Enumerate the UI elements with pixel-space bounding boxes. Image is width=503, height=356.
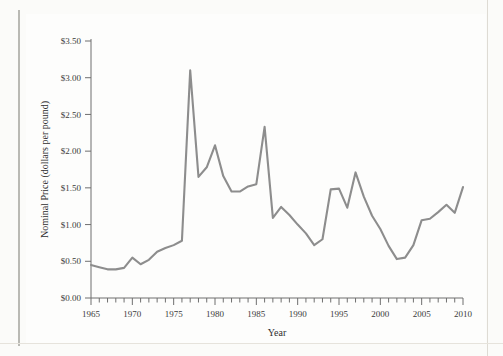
y-tick-label-6: $3.00 [61, 73, 82, 83]
x-tick-label-1: 1970 [123, 309, 142, 319]
y-tick-label-3: $1.50 [61, 183, 82, 193]
y-tick-label-4: $2.00 [61, 146, 82, 156]
y-tick-label-2: $1.00 [61, 220, 82, 230]
y-axis-tick-labels: $0.00$0.50$1.00$1.50$2.00$2.50$3.00$3.50 [61, 36, 82, 303]
x-tick-label-5: 1990 [289, 309, 308, 319]
x-axis-tick-labels: 1965197019751980198519901995200020052010 [82, 309, 473, 319]
chart-svg: $0.00$0.50$1.00$1.50$2.00$2.50$3.00$3.50… [26, 14, 486, 343]
x-tick-label-3: 1980 [206, 309, 225, 319]
y-axis-title: Nominal Price (dollars per pound) [39, 101, 51, 238]
x-axis-ticks [91, 298, 463, 305]
page-edge-left [18, 10, 20, 346]
scanned-page: $0.00$0.50$1.00$1.50$2.00$2.50$3.00$3.50… [0, 0, 503, 356]
page-edge-bottom [0, 343, 503, 344]
x-tick-label-6: 1995 [330, 309, 349, 319]
x-tick-label-8: 2005 [413, 309, 432, 319]
x-tick-label-2: 1975 [165, 309, 184, 319]
price-series-line [91, 70, 463, 269]
x-tick-label-7: 2000 [371, 309, 390, 319]
line-chart-figure: $0.00$0.50$1.00$1.50$2.00$2.50$3.00$3.50… [26, 14, 486, 343]
x-tick-label-9: 2010 [454, 309, 473, 319]
x-tick-label-4: 1985 [247, 309, 265, 319]
y-tick-label-1: $0.50 [61, 256, 82, 266]
x-axis-title: Year [268, 327, 287, 338]
x-tick-label-0: 1965 [82, 309, 101, 319]
y-tick-label-0: $0.00 [61, 293, 82, 303]
y-axis-ticks [85, 41, 91, 298]
y-tick-label-7: $3.50 [61, 36, 82, 46]
y-tick-label-5: $2.50 [61, 110, 82, 120]
page-edge-right [487, 0, 488, 356]
